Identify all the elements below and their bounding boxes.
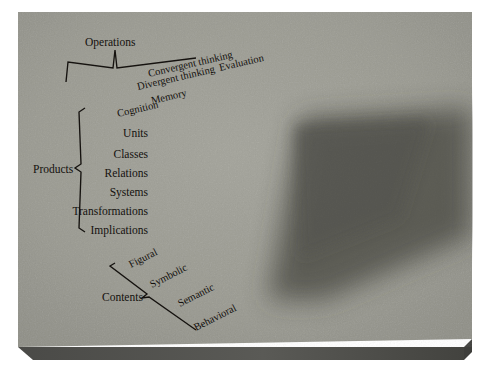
contents-bracket-label: Contents bbox=[102, 291, 143, 303]
products-bracket-label: Products bbox=[33, 163, 74, 175]
products-item-implications: Implications bbox=[91, 224, 149, 237]
products-item-relations: Relations bbox=[105, 167, 149, 179]
products-item-transformations: Transformations bbox=[72, 205, 148, 217]
products-item-systems: Systems bbox=[110, 186, 149, 199]
figure-canvas: Operations Evaluation Convergent thinkin… bbox=[0, 0, 489, 383]
operations-bracket-label: Operations bbox=[85, 36, 136, 49]
soi-cube-diagram: Operations Evaluation Convergent thinkin… bbox=[0, 0, 489, 383]
products-item-classes: Classes bbox=[114, 148, 149, 160]
products-item-units: Units bbox=[123, 127, 148, 139]
